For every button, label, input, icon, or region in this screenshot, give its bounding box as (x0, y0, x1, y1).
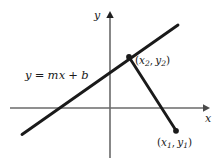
y-axis-arrowhead (106, 11, 113, 18)
point1-y-var: y (175, 136, 183, 148)
point-marker-x1y1 (173, 128, 179, 134)
equation-b: b (81, 68, 89, 82)
point-label-x2y2: (x2,y2) (135, 55, 170, 67)
equation-label: y=mx+b (25, 70, 89, 82)
x-axis-label: x (205, 113, 211, 124)
y-axis-label: y (94, 10, 100, 21)
point1-close-paren: ) (188, 136, 192, 148)
equation-equals: = (32, 68, 48, 82)
y-axis (106, 11, 113, 158)
figure-canvas: y x y=mx+b (x2,y2) (x1,y1) (0, 0, 224, 165)
equation-plus: + (65, 68, 81, 82)
x-axis-arrowhead (203, 104, 210, 112)
point-label-x1y1: (x1,y1) (157, 137, 192, 149)
point2-close-paren: ) (166, 54, 170, 66)
equation-y: y (25, 68, 32, 82)
point-marker-x2y2 (126, 54, 132, 60)
point2-y-var: y (153, 54, 161, 66)
segment-point2-to-point1 (129, 57, 176, 131)
equation-m: m (48, 68, 59, 82)
